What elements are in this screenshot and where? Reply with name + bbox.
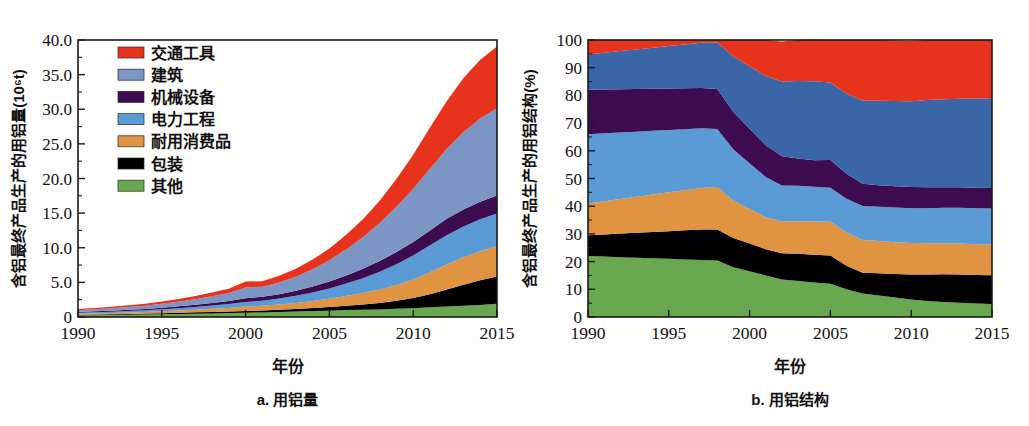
- x-tick-label-b-5: 2015: [975, 323, 1010, 343]
- x-tick-label-b-0: 1990: [571, 323, 606, 343]
- x-tick-label-a-1: 1995: [144, 323, 179, 343]
- y-tick-label-b-2: 20: [565, 253, 582, 272]
- x-tick-label-b-1: 1995: [651, 323, 686, 343]
- y-tick-label-a-6: 30.0: [42, 100, 72, 119]
- y-tick-label-a-5: 25.0: [42, 135, 72, 154]
- legend-label-5: 包装: [151, 155, 183, 173]
- legend-label-4: 耐用消费品: [151, 132, 231, 150]
- y-tick-label-a-3: 15.0: [42, 204, 72, 223]
- legend-swatch-0[interactable]: [118, 47, 144, 58]
- panel-caption-b: b. 用铝结构: [751, 391, 829, 408]
- legend-swatch-2[interactable]: [118, 91, 144, 102]
- y-axis-title-b: 含铝最终产品生产的用铝结构(%): [521, 69, 538, 287]
- legend-swatch-1[interactable]: [118, 69, 144, 80]
- y-tick-label-a-2: 10.0: [42, 239, 72, 258]
- x-axis-title-a: 年份: [272, 357, 305, 375]
- y-tick-label-a-4: 20.0: [42, 170, 72, 189]
- chart-legend: 交通工具建筑机械设备电力工程耐用消费品包装其他: [118, 44, 231, 195]
- legend-label-0: 交通工具: [151, 44, 215, 62]
- x-tick-label-b-4: 2010: [894, 323, 929, 343]
- y-tick-label-b-1: 10: [565, 280, 582, 299]
- figure-container: 05.010.015.020.025.030.035.040.019901995…: [0, 0, 1029, 426]
- y-tick-label-b-7: 70: [565, 114, 582, 133]
- y-tick-label-b-5: 50: [565, 170, 582, 189]
- x-tick-label-b-2: 2000: [732, 323, 767, 343]
- x-axis-title-b: 年份: [774, 357, 807, 375]
- y-tick-label-b-9: 90: [565, 59, 582, 78]
- chart-a-svg: 05.010.015.020.025.030.035.040.019901995…: [0, 0, 515, 426]
- x-tick-label-a-4: 2010: [396, 323, 431, 343]
- panel-caption-a: a. 用铝量: [257, 391, 319, 408]
- y-tick-label-a-8: 40.0: [42, 31, 72, 50]
- y-tick-label-b-4: 40: [565, 197, 582, 216]
- legend-swatch-5[interactable]: [118, 158, 144, 169]
- legend-label-6: 其他: [151, 177, 183, 195]
- y-tick-label-a-1: 5.0: [51, 273, 72, 292]
- x-tick-label-a-5: 2015: [480, 323, 515, 343]
- legend-label-1: 建筑: [151, 66, 183, 84]
- y-tick-label-b-10: 100: [557, 31, 583, 50]
- y-tick-label-b-8: 80: [565, 86, 582, 105]
- x-tick-label-a-3: 2005: [312, 323, 347, 343]
- chart-panel-a: 05.010.015.020.025.030.035.040.019901995…: [0, 0, 515, 426]
- x-tick-label-b-3: 2005: [813, 323, 848, 343]
- x-tick-label-a-0: 1990: [61, 323, 96, 343]
- y-tick-label-b-3: 30: [565, 225, 582, 244]
- y-axis-title-a: 含铝最终产品生产的用铝量(10⁶t): [10, 69, 27, 288]
- y-tick-label-a-7: 35.0: [42, 66, 72, 85]
- chart-panel-b: 0102030405060708090100199019952000200520…: [515, 0, 1029, 426]
- x-tick-label-a-2: 2000: [228, 323, 263, 343]
- chart-b-svg: 0102030405060708090100199019952000200520…: [515, 0, 1029, 426]
- legend-swatch-3[interactable]: [118, 114, 144, 125]
- y-tick-label-b-6: 60: [565, 142, 582, 161]
- legend-label-3: 电力工程: [151, 110, 215, 128]
- legend-swatch-6[interactable]: [118, 180, 144, 191]
- legend-label-2: 机械设备: [151, 88, 216, 106]
- legend-swatch-4[interactable]: [118, 136, 144, 147]
